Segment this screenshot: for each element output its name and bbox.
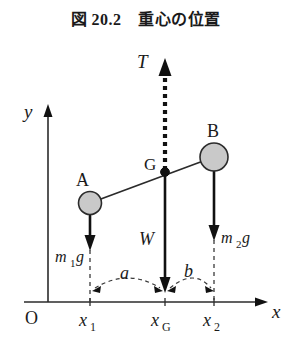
- drop-lines-group: [90, 240, 214, 301]
- tension-force: T: [137, 51, 172, 170]
- physics-diagram: y x O x 1 x G x 2: [0, 0, 291, 349]
- figure-container: 図 20.2 重心の位置 y x O x 1 x: [0, 0, 291, 349]
- weight-b-subscript: 2: [236, 238, 242, 250]
- mass-b-circle: [200, 143, 228, 171]
- weight-b-suffix: g: [242, 229, 250, 247]
- x-axis-arrowhead: [255, 298, 268, 307]
- weight-a-subscript: 1: [70, 257, 76, 269]
- x1-base: x: [78, 310, 87, 330]
- tension-label: T: [137, 51, 149, 72]
- y-axis-label: y: [22, 101, 33, 122]
- center-of-gravity-dot: [161, 168, 170, 177]
- dimension-b-label: b: [184, 261, 193, 281]
- x-tick-label-xg: x G: [150, 310, 171, 334]
- y-axis-arrowhead: [44, 104, 53, 117]
- dimension-a-label: a: [120, 263, 129, 283]
- weight-a-base: m: [55, 248, 67, 265]
- tension-arrowhead: [159, 58, 172, 76]
- dimension-a-arrowhead-right: [154, 286, 163, 293]
- x-axis-label: x: [271, 301, 281, 322]
- x1-subscript: 1: [90, 320, 96, 334]
- weight-a-suffix: g: [76, 248, 84, 266]
- x-tick-label-x2: x 2: [202, 310, 220, 334]
- mass-a-label: A: [76, 170, 89, 190]
- x-tick-label-x1: x 1: [78, 310, 96, 334]
- weight-b-arrowhead: [209, 225, 220, 241]
- mass-a-circle: [79, 192, 102, 215]
- axis-group: [24, 104, 268, 307]
- x2-subscript: 2: [214, 320, 220, 334]
- x2-base: x: [202, 310, 211, 330]
- dimension-b: b: [167, 261, 214, 293]
- origin-label: O: [25, 308, 38, 328]
- weight-a-label: m 1 g: [55, 248, 84, 269]
- xg-base: x: [150, 310, 159, 330]
- weight-total-force: W: [139, 172, 171, 293]
- weight-b-label: m 2 g: [221, 229, 250, 250]
- dimension-a: a: [92, 263, 163, 293]
- weight-a-arrowhead: [85, 235, 96, 251]
- xg-subscript: G: [162, 320, 171, 334]
- center-of-gravity-label: G: [144, 155, 156, 174]
- mass-b-label: B: [207, 121, 219, 141]
- weight-b-base: m: [221, 229, 233, 246]
- weight-total-label: W: [139, 229, 156, 249]
